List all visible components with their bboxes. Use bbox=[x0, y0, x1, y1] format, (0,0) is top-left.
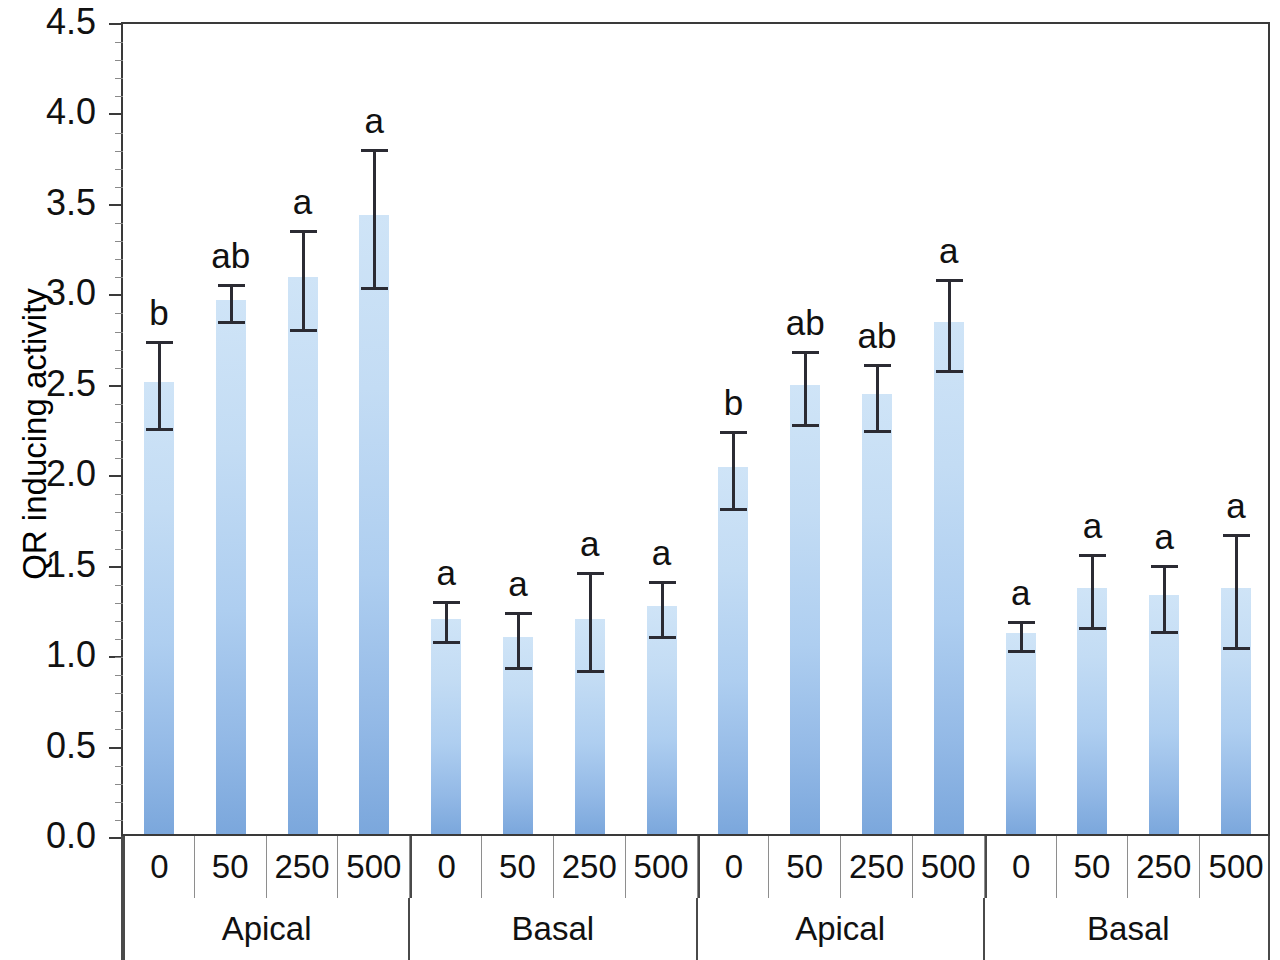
y-axis-minor-tick bbox=[115, 784, 123, 785]
error-bar-stem bbox=[876, 364, 879, 433]
significance-letter: a bbox=[365, 103, 384, 138]
x-axis-dose-label: 50 bbox=[482, 836, 554, 898]
y-axis-tick-label: 2.0 bbox=[10, 456, 96, 492]
error-bar-stem bbox=[1235, 534, 1238, 650]
x-axis-dose-label: 250 bbox=[1128, 836, 1200, 898]
x-axis-group-row: ApicalBasalApicalBasal bbox=[123, 898, 1268, 960]
y-axis-minor-tick bbox=[115, 711, 123, 712]
error-bar-cap-top bbox=[218, 284, 245, 287]
y-axis-minor-tick bbox=[115, 585, 123, 586]
y-axis-tick-label: 4.0 bbox=[10, 94, 96, 130]
x-axis-dose-label: 0 bbox=[985, 836, 1057, 898]
y-axis-minor-tick bbox=[115, 512, 123, 513]
significance-letter: a bbox=[1011, 575, 1030, 610]
error-bar-cap-top bbox=[361, 149, 388, 152]
y-axis-minor-tick bbox=[115, 603, 123, 604]
y-axis-minor-tick bbox=[115, 693, 123, 694]
x-axis-group-label: Apical bbox=[698, 898, 985, 960]
significance-letter: b bbox=[724, 385, 743, 420]
plot-inner: babaaaaaabababaaaaa bbox=[123, 24, 1268, 834]
x-axis-dose-label: 500 bbox=[913, 836, 985, 898]
error-bar-cap-top bbox=[290, 230, 317, 233]
x-axis-dose-label: 500 bbox=[1200, 836, 1272, 898]
y-axis-tick-mark bbox=[109, 566, 123, 568]
qr-inducing-activity-bar-chart: QR inducing activity 4.54.03.53.02.52.01… bbox=[0, 0, 1280, 960]
bar bbox=[288, 277, 318, 834]
error-bar-cap-top bbox=[720, 431, 747, 434]
y-axis-tick-label: 1.5 bbox=[10, 547, 96, 583]
y-axis-minor-tick bbox=[115, 133, 123, 134]
bar bbox=[144, 382, 174, 834]
y-axis-minor-tick bbox=[115, 350, 123, 351]
significance-letter: a bbox=[652, 535, 671, 570]
x-axis-dose-label: 0 bbox=[410, 836, 482, 898]
x-axis-dose-row: 050250500050250500050250500050250500 bbox=[123, 836, 1268, 898]
error-bar-cap-bottom bbox=[433, 641, 460, 644]
error-bar-stem bbox=[1020, 621, 1023, 654]
y-axis-minor-tick bbox=[115, 151, 123, 152]
error-bar-cap-bottom bbox=[1223, 647, 1250, 650]
y-axis-minor-tick bbox=[115, 404, 123, 405]
error-bar-stem bbox=[158, 341, 161, 431]
error-bar-stem bbox=[230, 284, 233, 324]
bar bbox=[216, 300, 246, 834]
bar bbox=[790, 385, 820, 834]
x-axis-dose-label: 0 bbox=[123, 836, 195, 898]
error-bar-cap-top bbox=[649, 581, 676, 584]
error-bar-cap-bottom bbox=[1008, 650, 1035, 653]
y-axis-minor-tick bbox=[115, 169, 123, 170]
error-bar-stem bbox=[661, 581, 664, 639]
y-axis-minor-tick bbox=[115, 621, 123, 622]
y-axis-tick-mark bbox=[109, 385, 123, 387]
y-axis-minor-tick bbox=[115, 60, 123, 61]
y-axis-minor-tick bbox=[115, 802, 123, 803]
significance-letter: a bbox=[508, 566, 527, 601]
error-bar-cap-top bbox=[936, 279, 963, 282]
y-axis-minor-tick bbox=[115, 458, 123, 459]
y-axis-tick-label: 1.0 bbox=[10, 637, 96, 673]
y-axis-tick-label: 2.5 bbox=[10, 366, 96, 402]
error-bar-cap-bottom bbox=[1079, 627, 1106, 630]
y-axis-minor-tick bbox=[115, 259, 123, 260]
significance-letter: b bbox=[149, 295, 168, 330]
x-axis-dose-label: 500 bbox=[338, 836, 410, 898]
x-axis-dose-label: 250 bbox=[267, 836, 339, 898]
x-axis-dose-label: 50 bbox=[195, 836, 267, 898]
y-axis-minor-tick bbox=[115, 675, 123, 676]
x-axis-dose-label: 50 bbox=[1057, 836, 1129, 898]
y-axis-tick-label: 4.5 bbox=[10, 4, 96, 40]
error-bar-cap-top bbox=[146, 341, 173, 344]
error-bar-cap-top bbox=[792, 351, 819, 354]
error-bar-stem bbox=[445, 601, 448, 644]
error-bar-cap-bottom bbox=[720, 508, 747, 511]
error-bar-stem bbox=[1163, 565, 1166, 634]
y-axis-minor-tick bbox=[115, 332, 123, 333]
error-bar-cap-bottom bbox=[577, 670, 604, 673]
y-axis-minor-tick bbox=[115, 549, 123, 550]
y-axis-minor-tick bbox=[115, 820, 123, 821]
error-bar-cap-bottom bbox=[936, 370, 963, 373]
y-axis-minor-tick bbox=[115, 729, 123, 730]
error-bar-cap-bottom bbox=[792, 424, 819, 427]
bar bbox=[647, 606, 677, 834]
error-bar-cap-top bbox=[1151, 565, 1178, 568]
error-bar-stem bbox=[589, 572, 592, 673]
error-bar-stem bbox=[517, 612, 520, 670]
significance-letter: a bbox=[1226, 488, 1245, 523]
y-axis-minor-tick bbox=[115, 530, 123, 531]
error-bar-stem bbox=[732, 431, 735, 511]
y-axis-minor-tick bbox=[115, 241, 123, 242]
significance-letter: a bbox=[1155, 519, 1174, 554]
y-axis-tick-mark bbox=[109, 747, 123, 749]
x-axis-group-label: Apical bbox=[123, 898, 410, 960]
x-axis-label-table: 050250500050250500050250500050250500 Api… bbox=[121, 836, 1270, 960]
error-bar-cap-top bbox=[1079, 554, 1106, 557]
error-bar-cap-bottom bbox=[864, 430, 891, 433]
y-axis-tick-labels: 4.54.03.53.02.52.01.51.00.50.0 bbox=[0, 0, 96, 960]
error-bar-cap-top bbox=[577, 572, 604, 575]
error-bar-cap-top bbox=[505, 612, 532, 615]
error-bar-stem bbox=[302, 230, 305, 331]
bar bbox=[431, 619, 461, 834]
x-axis-dose-label: 500 bbox=[626, 836, 698, 898]
bar bbox=[934, 322, 964, 834]
